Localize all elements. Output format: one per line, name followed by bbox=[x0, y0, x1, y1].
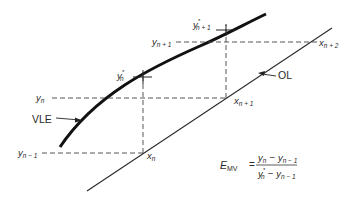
label-y-n-minus-1: yn − 1 bbox=[17, 147, 38, 159]
label-x-n-plus-1: xn + 1 bbox=[233, 95, 254, 107]
eq-denominator: y*n−yn − 1 bbox=[257, 167, 296, 180]
label-y-n: yn bbox=[35, 92, 45, 104]
vle-label: VLE bbox=[32, 113, 52, 125]
vle-arrow bbox=[56, 118, 82, 123]
construction-lines bbox=[42, 25, 318, 153]
eq-equals: = bbox=[249, 159, 255, 170]
label-x-n: xn bbox=[146, 150, 156, 162]
murphree-equation: EMV = yn−yn − 1 y*n−yn − 1 bbox=[220, 152, 298, 180]
vle-curve bbox=[60, 14, 266, 147]
diagram-canvas: VLE OL yn − 1 yn y*n yn + 1 y*n + 1 xn x… bbox=[0, 0, 358, 201]
label-y-n-plus-1-star: y*n + 1 bbox=[192, 18, 211, 31]
eq-numerator: yn−yn − 1 bbox=[257, 152, 298, 164]
label-y-n-plus-1: yn + 1 bbox=[151, 36, 172, 48]
label-y-n-star: y*n bbox=[116, 69, 125, 82]
ol-label: OL bbox=[278, 69, 292, 81]
operating-line bbox=[87, 28, 332, 191]
label-x-n-plus-2: xn + 2 bbox=[318, 37, 339, 49]
eq-lhs: EMV bbox=[220, 159, 238, 172]
